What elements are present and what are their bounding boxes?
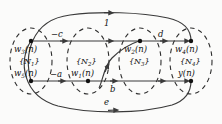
node-dot-w2: [138, 39, 142, 43]
node-dot-w4: [189, 39, 193, 43]
cluster-label-N3-open: {N: [129, 57, 141, 66]
node-label-w4: w4(n): [175, 45, 198, 55]
cluster-label-N3-close: }: [145, 57, 150, 66]
edge-label-d: d: [158, 30, 163, 39]
edge-label-b: b: [110, 85, 115, 94]
cluster-label-N2-open: {N: [76, 57, 88, 66]
node-label-y: y(n): [178, 69, 195, 78]
node-label-y-arg: (n): [183, 68, 195, 78]
node-label-w5-arg: (n): [25, 68, 37, 78]
node-dot-w5: [29, 79, 33, 83]
cluster-label-N1: {N1}: [19, 58, 40, 67]
node-label-w2-arg: (n): [135, 44, 147, 54]
node-label-w3: w3(n): [14, 45, 37, 55]
signal-flow-graph-figure: 1 −c d −a b e w3(n) {N1} w5(n) {N2} w1(n…: [0, 0, 222, 124]
cluster-label-N4-close: }: [196, 57, 201, 66]
cluster-label-N1-open: {N: [19, 57, 31, 66]
node-dot-w1: [86, 79, 90, 83]
node-label-w4-arg: (n): [186, 44, 198, 54]
cluster-label-N4: {N4}: [180, 58, 201, 67]
node-dot-w3: [29, 39, 33, 43]
cluster-label-N3: {N3}: [129, 58, 150, 67]
edge-label-e: e: [104, 98, 109, 107]
cluster-label-N2-close: }: [92, 57, 97, 66]
node-dot-y: [189, 79, 193, 83]
node-label-w3-arg: (n): [25, 44, 37, 54]
node-label-w2: w2(n): [124, 45, 147, 55]
node-label-w5: w5(n): [14, 69, 37, 79]
edge-label-minus-a: −a: [50, 70, 62, 79]
cluster-label-N1-close: }: [35, 57, 40, 66]
node-label-w1: w1(n): [71, 69, 94, 79]
node-label-w1-arg: (n): [82, 68, 94, 78]
cluster-label-N2: {N2}: [76, 58, 97, 67]
cluster-label-N4-open: {N: [180, 57, 192, 66]
edge-label-minus-c: −c: [51, 30, 63, 39]
edge-label-1: 1: [104, 19, 109, 28]
